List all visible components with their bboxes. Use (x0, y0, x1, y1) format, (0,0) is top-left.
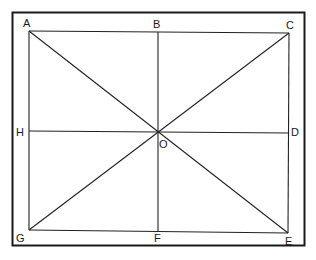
label-d: D (291, 126, 299, 138)
label-o: O (159, 138, 168, 150)
side-ac (29, 31, 289, 33)
label-e: E (285, 235, 292, 247)
label-g: G (16, 232, 25, 244)
geometric-diagram: A B C D E F G H O (0, 0, 316, 260)
label-a: A (23, 17, 31, 29)
label-b: B (153, 18, 160, 30)
label-f: F (154, 232, 161, 244)
label-h: H (16, 126, 24, 138)
label-c: C (286, 19, 294, 31)
